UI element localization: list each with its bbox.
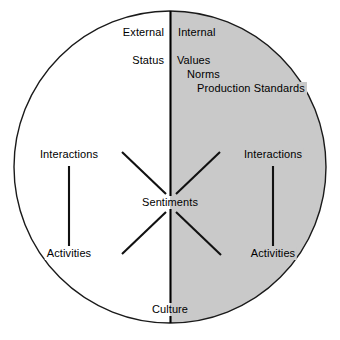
internal-norms-label: Norms — [185, 68, 222, 81]
culture-bottom-label: Culture — [150, 303, 190, 316]
left-activities-label: Activities — [45, 247, 93, 260]
internal-values-label: Values — [175, 54, 212, 67]
diagonal-upper-left-connector — [122, 152, 166, 194]
right-interactions-label: Interactions — [242, 148, 304, 161]
right-activities-label: Activities — [249, 247, 297, 260]
organizational-behavior-diagram: External Internal Status Values Norms Pr… — [0, 0, 340, 340]
internal-header-label: Internal — [176, 26, 218, 39]
diagram-canvas — [0, 0, 340, 340]
diagonal-lower-left-connector — [122, 212, 166, 254]
left-interactions-label: Interactions — [38, 148, 100, 161]
internal-production-standards-label: Production Standards — [195, 82, 307, 95]
external-header-label: External — [121, 26, 166, 39]
sentiments-center-label: Sentiments — [140, 196, 200, 209]
external-status-label: Status — [130, 54, 166, 67]
